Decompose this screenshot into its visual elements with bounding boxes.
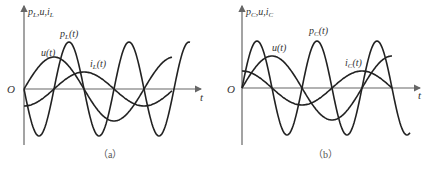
- origin-label: O: [7, 83, 15, 95]
- origin-label: O: [227, 83, 235, 95]
- x-axis-label: t: [200, 91, 204, 103]
- panel-a-inductor: pL,u,iL O t pL(t) u(t) iL(t) （a）: [7, 6, 204, 160]
- y-axis-label: pL,u,iL: [27, 6, 54, 19]
- power-waveform-figure: pL,u,iL O t pL(t) u(t) iL(t) （a） pC,u,iC…: [0, 0, 434, 171]
- current-curve-label: iL(t): [90, 58, 107, 71]
- current-curve-label: iC(t): [345, 57, 363, 70]
- panel-b-capacitor: pC,u,iC O t pC(t) u(t) iC(t) （b）: [227, 6, 422, 160]
- voltage-curve-label: u(t): [272, 42, 287, 54]
- power-curve-label: pL(t): [59, 28, 79, 41]
- x-axis-label: t: [418, 89, 422, 101]
- y-axis-label: pC,u,iC: [245, 6, 273, 19]
- caption-b: （b）: [313, 149, 338, 160]
- voltage-curve-label: u(t): [41, 47, 56, 59]
- caption-a: （a）: [98, 149, 122, 160]
- power-curve-label: pC(t): [308, 25, 329, 38]
